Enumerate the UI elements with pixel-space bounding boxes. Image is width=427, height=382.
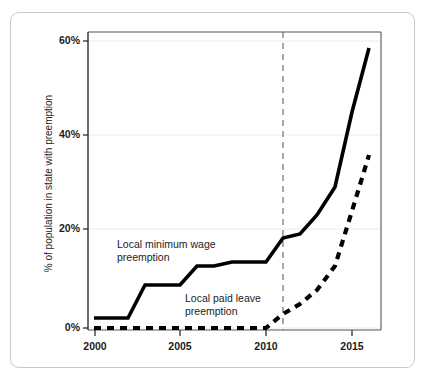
x-axis-ticks (95, 330, 352, 336)
y-tick-label-60: 60% (50, 34, 80, 46)
y-tick-label-40: 40% (50, 128, 80, 140)
x-tick-label-2000: 2000 (70, 340, 120, 352)
y-axis-title: % of population in state with preemption (43, 74, 54, 294)
annotation-minimum-wage: Local minimum wage preemption (117, 238, 216, 264)
x-tick-label-2015: 2015 (327, 340, 377, 352)
x-tick-label-2005: 2005 (155, 340, 205, 352)
y-axis-ticks (83, 41, 88, 328)
y-tick-label-20: 20% (50, 222, 80, 234)
annotation-paid-leave: Local paid leave preemption (185, 292, 261, 318)
x-tick-label-2010: 2010 (241, 340, 291, 352)
y-tick-label-0: 0% (50, 321, 80, 333)
chart-figure: 60% 40% 20% 0% 2000 2005 2010 2015 % of … (0, 0, 427, 382)
